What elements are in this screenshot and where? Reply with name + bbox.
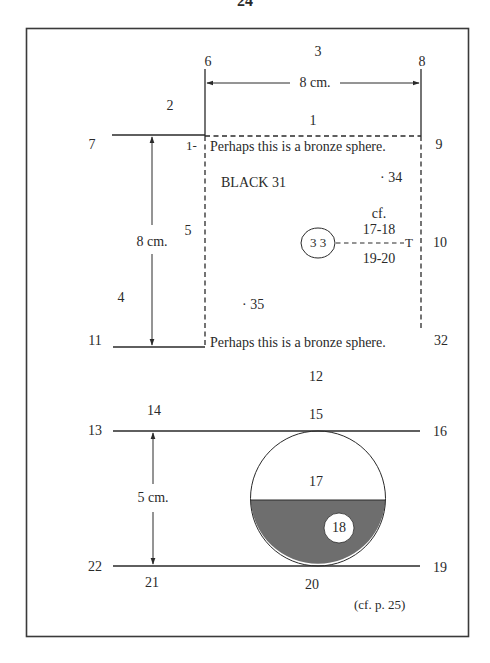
label-19: 19 <box>433 561 447 575</box>
sphere-note-top: Perhaps this is a bronze sphere. <box>210 140 386 154</box>
label-1-dash: 1- <box>186 139 197 153</box>
label-32: 32 <box>434 334 448 348</box>
crossref-17-18: 17-18 <box>363 223 396 237</box>
label-2: 2 <box>167 99 174 113</box>
label-35: · 35 <box>242 298 264 312</box>
label-20: 20 <box>305 578 319 592</box>
cross-reference-note: (cf. p. 25) <box>354 598 405 612</box>
dimension-label-5cm: 5 cm. <box>137 491 168 505</box>
sphere-note-bottom: Perhaps this is a bronze sphere. <box>210 336 386 350</box>
label-7: 7 <box>89 138 96 152</box>
crossref-19-20: 19-20 <box>363 252 396 266</box>
label-22: 22 <box>88 560 102 574</box>
label-4: 4 <box>118 291 125 305</box>
label-34: · 34 <box>380 171 402 185</box>
dimension-label-horizontal: 8 cm. <box>295 76 334 90</box>
label-18: 18 <box>332 521 346 535</box>
block-label: BLACK 31 <box>221 176 286 190</box>
label-1: 1 <box>310 114 317 128</box>
label-16: 16 <box>433 425 447 439</box>
label-21: 21 <box>145 576 159 590</box>
label-13: 13 <box>88 424 102 438</box>
label-3: 3 <box>315 45 322 59</box>
diagram-canvas <box>0 0 490 663</box>
circle-33-label: 3 3 <box>310 236 326 250</box>
dimension-label-vertical: 8 cm. <box>136 235 167 249</box>
label-6: 6 <box>205 55 212 69</box>
label-11: 11 <box>88 334 101 348</box>
label-5: 5 <box>185 224 192 238</box>
crossref-cf: cf. <box>372 207 386 221</box>
label-15: 15 <box>309 408 323 422</box>
label-8: 8 <box>419 55 426 69</box>
label-17: 17 <box>309 475 323 489</box>
label-9: 9 <box>436 138 443 152</box>
sphere-shaded-segment <box>251 500 386 564</box>
circle-endpoint-T: T <box>405 236 413 250</box>
label-12: 12 <box>309 370 323 384</box>
label-14: 14 <box>147 404 161 418</box>
label-10: 10 <box>433 236 447 250</box>
